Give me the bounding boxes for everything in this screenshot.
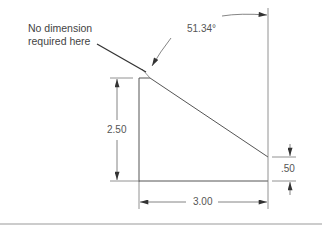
extension-lines <box>110 8 296 209</box>
note-leader-line <box>97 44 146 72</box>
part-outline <box>139 78 268 182</box>
angle-dimension-arc <box>152 38 171 66</box>
note-line-2: required here <box>28 35 92 48</box>
note-label: No dimension required here <box>28 22 92 48</box>
diagonal-edge <box>150 78 268 157</box>
width-dimension-label: 3.00 <box>192 196 213 208</box>
angle-dimension-label: 51.34° <box>186 23 217 35</box>
height-dimension-label: 2.50 <box>106 124 127 136</box>
offset-dimension-label: .50 <box>280 163 296 175</box>
note-line-1: No dimension <box>28 22 92 35</box>
